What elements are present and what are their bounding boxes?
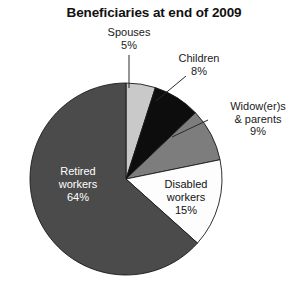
callout-spouses: Spouses 5% [87, 26, 171, 51]
slice-label-retired-line1: Retired [38, 165, 118, 178]
slice-label-disabled-line2: workers [146, 191, 226, 204]
callout-widowers-and-parents: Widow(er)s & parents 9% [210, 100, 306, 138]
slice-label-retired-line2: workers [38, 178, 118, 191]
callout-widowers-name-line2: & parents [210, 113, 306, 126]
slice-label-disabled-workers: Disabled workers 15% [146, 178, 226, 217]
callout-spouses-name: Spouses [87, 26, 171, 39]
slice-label-retired-workers: Retired workers 64% [38, 165, 118, 204]
callout-children-name: Children [160, 52, 238, 65]
pie-chart-figure: Beneficiaries at end of 2009 Spouses 5% … [0, 0, 308, 290]
callout-children-value: 8% [160, 65, 238, 78]
slice-label-disabled-value: 15% [146, 204, 226, 217]
slice-label-disabled-line1: Disabled [146, 178, 226, 191]
cut-off-footer-text [0, 282, 308, 290]
callout-children: Children 8% [160, 52, 238, 77]
callout-widowers-value: 9% [210, 125, 306, 138]
callout-widowers-name-line1: Widow(er)s [210, 100, 306, 113]
callout-spouses-value: 5% [87, 39, 171, 52]
slice-label-retired-value: 64% [38, 191, 118, 204]
